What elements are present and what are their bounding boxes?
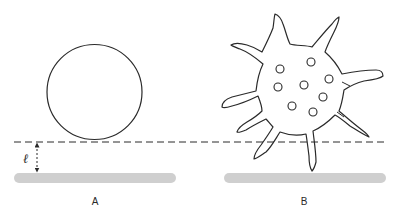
vesicle (300, 81, 308, 89)
vesicles (274, 58, 333, 116)
panel-label-a: A (92, 196, 99, 207)
vesicle (274, 83, 282, 91)
distance-label: ℓ (23, 151, 29, 166)
vesicle (309, 108, 317, 116)
vesicle (319, 93, 327, 101)
adhesion-diagram: ℓ A B (0, 0, 399, 217)
substrate-b (224, 173, 386, 183)
smooth-cell (47, 45, 142, 140)
vesicle (288, 102, 296, 110)
vesicle (307, 58, 315, 66)
panel-label-b: B (301, 196, 308, 207)
spiky-cell (222, 14, 383, 171)
vesicle (325, 75, 333, 83)
substrate-a (14, 173, 176, 183)
filopodium-base-right (342, 82, 350, 86)
vesicle (276, 65, 284, 73)
